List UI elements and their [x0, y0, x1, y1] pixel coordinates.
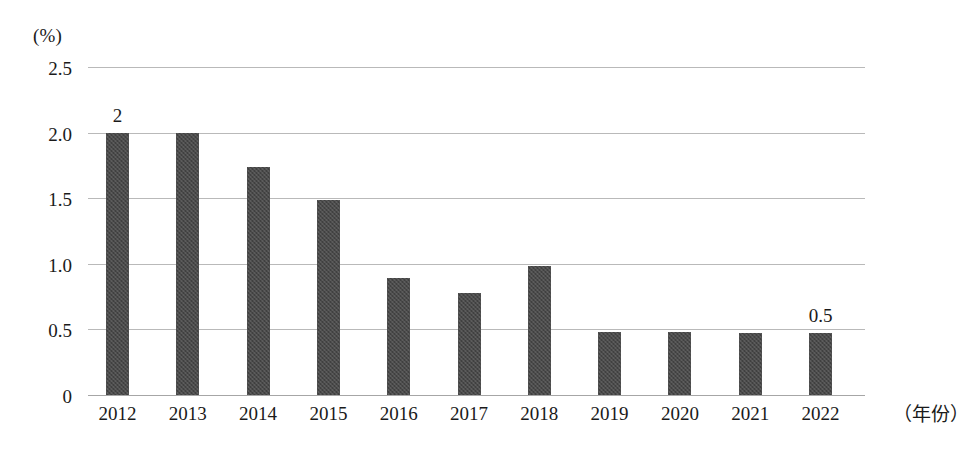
y-axis-tick-label: 0 [63, 387, 73, 406]
bar-fill [528, 266, 551, 395]
bar-fill [387, 278, 410, 395]
x-axis-tick-label: 2015 [309, 402, 347, 426]
bar-fill [739, 333, 762, 395]
x-axis-tick-label: 2021 [731, 402, 769, 426]
bars-layer: 20.5 [88, 67, 888, 395]
y-axis-unit-label: (%) [33, 26, 62, 46]
bar-fill [809, 333, 832, 395]
x-axis-tick-label: 2014 [239, 402, 277, 426]
x-axis-tick-labels: （年份） 20122013201420152016201720182019202… [88, 402, 888, 442]
x-axis-tick-label: 2013 [169, 402, 207, 426]
y-axis-tick-label: 0.5 [48, 321, 72, 340]
bar-value-label: 2 [113, 106, 123, 125]
x-axis-tick-label: 2018 [520, 402, 558, 426]
x-axis-baseline: 0 [88, 395, 865, 396]
x-axis-tick-label: 2017 [450, 402, 488, 426]
y-axis-tick-label: 2.0 [48, 124, 72, 143]
bar-fill [668, 332, 691, 395]
bar-fill [106, 133, 129, 395]
bar-fill [247, 167, 270, 395]
bar-fill [598, 332, 621, 395]
x-axis-tick-label: 2022 [802, 402, 840, 426]
x-axis-tick-label: 2019 [591, 402, 629, 426]
bar-fill [458, 293, 481, 395]
bar-value-label: 0.5 [809, 306, 833, 325]
y-axis-tick-label: 2.5 [48, 59, 72, 78]
y-axis-tick-label: 1.0 [48, 255, 72, 274]
x-axis-tick-label: 2012 [99, 402, 137, 426]
y-axis-tick-label: 1.5 [48, 190, 72, 209]
x-axis-tick-label: 2020 [661, 402, 699, 426]
bar-fill [176, 133, 199, 395]
bar-fill [317, 200, 340, 395]
x-axis-tick-label: 2016 [380, 402, 418, 426]
x-axis-title: （年份） [893, 402, 961, 426]
